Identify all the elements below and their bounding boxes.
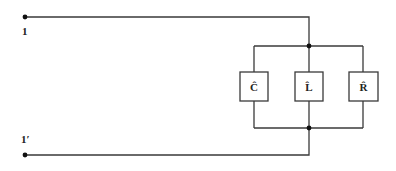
top-wire bbox=[25, 17, 309, 46]
circuit-diagram: Ĉ L̂ R̂ 1 1′ bbox=[0, 0, 396, 171]
element-r: R̂ bbox=[349, 72, 378, 101]
terminal-1-node bbox=[23, 15, 28, 20]
element-c: Ĉ bbox=[240, 72, 268, 101]
top-junction-node bbox=[307, 44, 312, 49]
element-l-label: L̂ bbox=[305, 81, 312, 93]
terminal-1prime-label: 1′ bbox=[21, 133, 30, 145]
element-l: L̂ bbox=[295, 72, 323, 101]
terminal-1-label: 1 bbox=[22, 25, 28, 37]
element-c-label: Ĉ bbox=[250, 81, 258, 93]
bottom-junction-node bbox=[307, 126, 312, 131]
terminal-1prime-node bbox=[23, 153, 28, 158]
element-r-label: R̂ bbox=[360, 81, 369, 93]
bottom-wire bbox=[25, 128, 309, 155]
